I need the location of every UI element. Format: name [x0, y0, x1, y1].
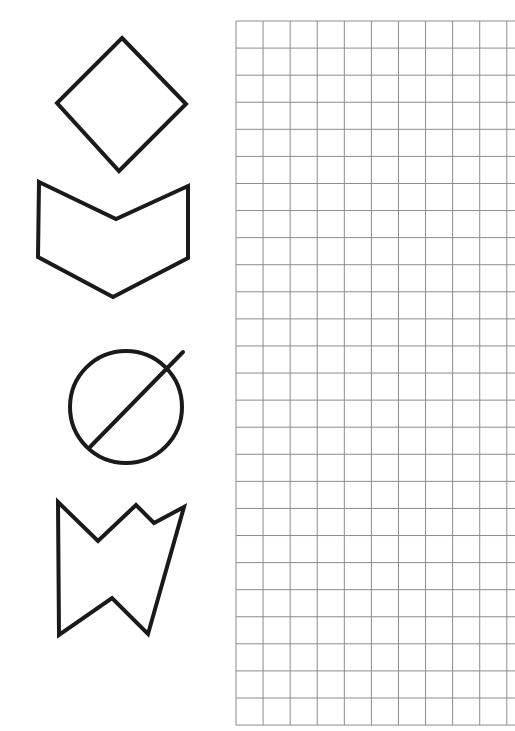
drawing-grid: [0, 0, 515, 731]
